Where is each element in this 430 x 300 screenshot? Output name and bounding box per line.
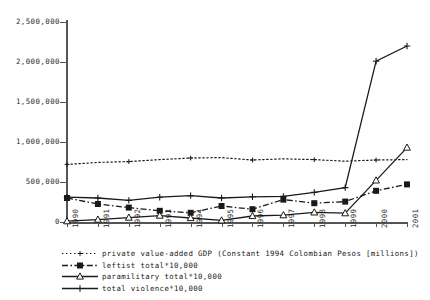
legend-filled-square-icon (58, 260, 102, 271)
legend-label: leftist total*10,000 (102, 262, 198, 269)
legend-item: private value-added GDP (Constant 1994 C… (58, 248, 430, 260)
chart-legend: private value-added GDP (Constant 1994 C… (58, 248, 430, 294)
legend-item: paramilitary total*10,000 (58, 271, 430, 283)
legend-open-triangle-icon (58, 271, 102, 282)
chart-figure: 0500,0001,000,0001,500,0002,000,0002,500… (0, 0, 430, 300)
legend-label: private value-added GDP (Constant 1994 C… (102, 250, 419, 257)
legend-item: leftist total*10,000 (58, 260, 430, 272)
legend-label: total violence*10,000 (102, 285, 203, 292)
legend-item: total violence*10,000 (58, 283, 430, 295)
legend-dot-plus-icon (58, 248, 102, 259)
series-3 (64, 144, 411, 224)
series-1 (65, 156, 407, 167)
legend-plus-icon (58, 283, 102, 294)
series-4 (64, 43, 410, 204)
legend-label: paramilitary total*10,000 (102, 273, 222, 280)
